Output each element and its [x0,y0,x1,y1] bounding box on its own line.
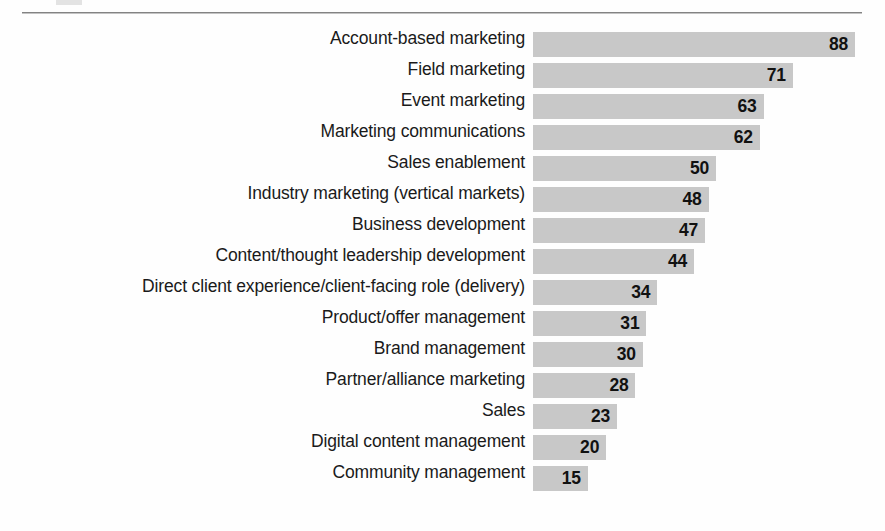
chart-row: Community management15 [0,460,885,491]
bar-value-label: 48 [683,187,702,212]
bar: 23 [533,404,617,429]
bar-value-label: 44 [668,249,687,274]
bar-value-label: 47 [679,218,698,243]
category-label: Direct client experience/client-facing r… [142,274,525,299]
chart-row: Business development47 [0,212,885,243]
chart-row: Direct client experience/client-facing r… [0,274,885,305]
bar: 48 [533,187,709,212]
bar-value-label: 50 [690,156,709,181]
bar-value-label: 31 [620,311,639,336]
bar: 71 [533,63,793,88]
bar-value-label: 30 [617,342,636,367]
bar-chart: Account-based marketing88Field marketing… [0,26,885,491]
bar: 63 [533,94,764,119]
bar-track: 71 [533,63,885,88]
category-label: Field marketing [408,57,525,82]
bar: 30 [533,342,643,367]
chart-row: Marketing communications62 [0,119,885,150]
bar-track: 48 [533,187,885,212]
category-label: Content/thought leadership development [215,243,525,268]
category-label: Digital content management [311,429,525,454]
chart-page: Account-based marketing88Field marketing… [0,0,885,531]
bar-track: 30 [533,342,885,367]
category-label: Product/offer management [322,305,525,330]
bar-track: 23 [533,404,885,429]
category-label: Industry marketing (vertical markets) [248,181,525,206]
category-label: Marketing communications [320,119,525,144]
chart-row: Content/thought leadership development44 [0,243,885,274]
bar: 47 [533,218,705,243]
bar-value-label: 28 [609,373,628,398]
chart-row: Field marketing71 [0,57,885,88]
category-label: Business development [352,212,525,237]
bar-value-label: 15 [562,466,581,491]
chart-row: Event marketing63 [0,88,885,119]
bar-value-label: 71 [767,63,786,88]
chart-row: Product/offer management31 [0,305,885,336]
bar-track: 63 [533,94,885,119]
chart-row: Account-based marketing88 [0,26,885,57]
chart-row: Sales enablement50 [0,150,885,181]
bar-track: 50 [533,156,885,181]
bar-value-label: 20 [580,435,599,460]
chart-row: Industry marketing (vertical markets)48 [0,181,885,212]
header-divider-rule [22,12,862,13]
bar-value-label: 34 [631,280,650,305]
bar: 62 [533,125,760,150]
bar-track: 47 [533,218,885,243]
cropped-text-artifact [56,0,82,5]
bar-value-label: 63 [737,94,756,119]
bar: 31 [533,311,646,336]
bar-value-label: 88 [829,32,848,57]
bar-value-label: 62 [734,125,753,150]
bar-track: 88 [533,32,885,57]
bar: 20 [533,435,606,460]
bar-track: 15 [533,466,885,491]
bar-track: 31 [533,311,885,336]
bar-track: 34 [533,280,885,305]
bar-track: 44 [533,249,885,274]
category-label: Brand management [374,336,525,361]
category-label: Event marketing [401,88,525,113]
chart-row: Partner/alliance marketing28 [0,367,885,398]
category-label: Account-based marketing [330,26,525,51]
bar: 15 [533,466,588,491]
bar: 44 [533,249,694,274]
chart-row: Brand management30 [0,336,885,367]
category-label: Sales enablement [387,150,525,175]
bar: 50 [533,156,716,181]
category-label: Community management [333,460,526,485]
bar-value-label: 23 [591,404,610,429]
bar-track: 28 [533,373,885,398]
bar-track: 20 [533,435,885,460]
category-label: Partner/alliance marketing [326,367,525,392]
bar: 34 [533,280,657,305]
category-label: Sales [482,398,525,423]
bar-track: 62 [533,125,885,150]
bar: 88 [533,32,855,57]
chart-row: Digital content management20 [0,429,885,460]
bar: 28 [533,373,635,398]
chart-row: Sales23 [0,398,885,429]
